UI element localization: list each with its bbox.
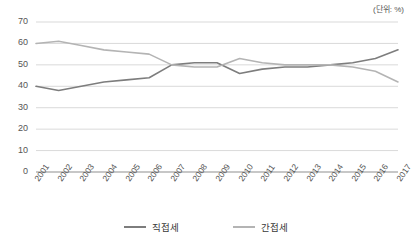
legend-item-2[interactable]: 간접세 — [233, 220, 288, 234]
y-tick-label: 50 — [2, 60, 28, 69]
legend-label: 직접세 — [152, 220, 179, 234]
legend-line-icon — [233, 226, 255, 228]
legend-label: 간접세 — [261, 220, 288, 234]
y-tick-label: 20 — [2, 124, 28, 133]
y-tick-label: 60 — [2, 38, 28, 47]
y-tick-label: 10 — [2, 146, 28, 155]
series-lines — [36, 41, 398, 90]
y-tick-label: 70 — [2, 17, 28, 26]
y-tick-label: 40 — [2, 81, 28, 90]
legend-line-icon — [124, 226, 146, 228]
legend-item-1[interactable]: 직접세 — [124, 220, 179, 234]
tax-ratio-line-chart: (단위: %) 706050403020100 2001200220032004… — [0, 0, 412, 246]
plot-area — [0, 0, 412, 246]
series-line-1 — [36, 50, 398, 91]
y-tick-label: 0 — [2, 167, 28, 176]
series-line-2 — [36, 41, 398, 82]
chart-legend: 직접세간접세 — [0, 220, 412, 234]
gridlines — [36, 22, 398, 172]
y-tick-label: 30 — [2, 103, 28, 112]
